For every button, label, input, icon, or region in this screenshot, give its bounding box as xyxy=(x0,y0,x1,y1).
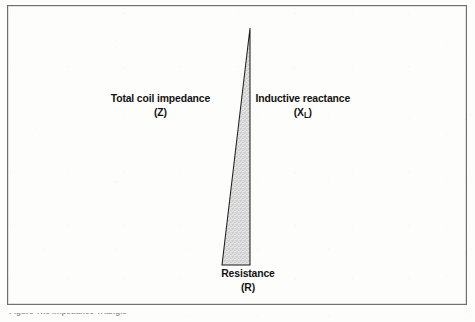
label-resistance: Resistance (R) xyxy=(200,266,297,294)
caption-remnant-text: Figure The Impedance Triangle xyxy=(9,313,309,316)
impedance-triangle-figure: Total coil impedance (Z) Inductive react… xyxy=(0,0,475,322)
cut-off-caption-remnant: Figure The Impedance Triangle xyxy=(9,313,309,322)
reactance-symbol-text: (XL) xyxy=(256,105,351,122)
resistance-name-text: Resistance xyxy=(200,266,297,280)
resistance-symbol-text: (R) xyxy=(200,280,297,294)
reactance-symbol-prefix: (X xyxy=(294,106,304,118)
impedance-symbol-text: (Z) xyxy=(111,105,210,119)
impedance-name-text: Total coil impedance xyxy=(111,91,210,105)
label-total-coil-impedance: Total coil impedance (Z) xyxy=(111,91,210,119)
reactance-name-text: Inductive reactance xyxy=(256,91,351,105)
figure-frame-border xyxy=(7,5,467,305)
reactance-symbol-suffix: ) xyxy=(309,106,312,118)
label-inductive-reactance: Inductive reactance (XL) xyxy=(256,91,351,122)
